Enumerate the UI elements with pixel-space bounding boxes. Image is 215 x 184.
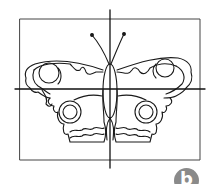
- right-hindwing: [115, 90, 172, 142]
- butterfly-symmetry-diagram: [0, 0, 215, 184]
- left-hindwing: [42, 90, 106, 142]
- right-forewing: [117, 58, 192, 98]
- diagram-canvas: [0, 0, 215, 184]
- antennae: [91, 33, 126, 64]
- left-forewing: [25, 61, 103, 98]
- figure-label-text: b: [180, 168, 193, 184]
